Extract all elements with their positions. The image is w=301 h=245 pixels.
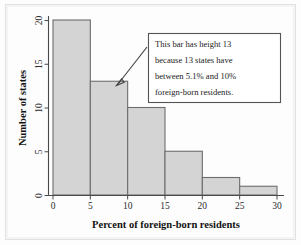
- x-tick-labels: 0 5 10 15 20 25 30: [51, 201, 282, 211]
- bar-20-25[interactable]: [202, 178, 239, 196]
- annotation-line-3: between 5.1% and 10%: [155, 71, 236, 81]
- bar-5-10[interactable]: [90, 81, 127, 195]
- x-axis-title: Percent of foreign-born residents: [92, 219, 240, 230]
- y-tick-label-10: 10: [34, 103, 44, 113]
- y-tick-marks: [45, 21, 49, 196]
- annotation-arrow-line: [119, 47, 148, 84]
- histogram-figure: 0 5 10 15 20 0 5 10 15 20 25 30 Number o…: [0, 0, 301, 245]
- x-tick-label-10: 10: [123, 201, 133, 211]
- x-tick-marks: [53, 196, 277, 200]
- x-tick-label-30: 30: [272, 201, 282, 211]
- x-tick-label-5: 5: [88, 201, 93, 211]
- y-axis-title: Number of states: [17, 70, 28, 146]
- annotation-line-2: because 13 states have: [155, 55, 233, 65]
- y-tick-label-20: 20: [34, 16, 44, 26]
- y-tick-labels: 0 5 10 15 20: [34, 16, 44, 198]
- bar-10-15[interactable]: [128, 108, 165, 196]
- histogram-plot: 0 5 10 15 20 0 5 10 15 20 25 30 Number o…: [0, 0, 301, 245]
- y-tick-label-0: 0: [34, 193, 44, 198]
- annotation-line-1: This bar has height 13: [155, 39, 231, 49]
- x-tick-label-20: 20: [198, 201, 208, 211]
- y-tick-label-15: 15: [34, 59, 44, 69]
- bar-25-30[interactable]: [240, 186, 277, 195]
- x-tick-label-15: 15: [160, 201, 170, 211]
- bar-15-20[interactable]: [165, 151, 202, 195]
- annotation-line-4: foreign-born residents.: [155, 87, 233, 97]
- x-tick-label-0: 0: [51, 201, 56, 211]
- y-tick-label-5: 5: [34, 149, 44, 154]
- x-tick-label-25: 25: [235, 201, 245, 211]
- bar-0-5[interactable]: [53, 20, 90, 195]
